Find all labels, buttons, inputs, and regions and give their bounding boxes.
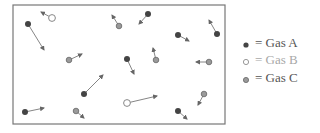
gas-c-gray-dot-icon: [241, 73, 253, 83]
gas-c-dot-icon: [116, 23, 122, 29]
legend-item-gas-a: = Gas A: [241, 34, 298, 52]
gas-c-dot-icon: [201, 91, 207, 97]
gas-a-dot-icon: [25, 21, 31, 27]
particle-gas-c: [153, 48, 159, 63]
gas-a-dot-icon: [81, 91, 87, 97]
particle-gas-c: [66, 54, 82, 63]
gas-b-dot-icon: [49, 15, 56, 22]
particle-gas-a: [209, 20, 220, 37]
gas-b-hollow-dot-icon: [241, 55, 253, 65]
particle-gas-b: [124, 96, 157, 106]
gas-a-filled-dot-icon: [241, 38, 253, 48]
legend-label-gas-b: = Gas B: [255, 52, 298, 68]
particle-gas-c: [196, 59, 212, 65]
velocity-arrow-icon: [84, 75, 103, 94]
particle-gas-a: [81, 75, 103, 97]
particle-gas-b: [41, 12, 55, 21]
gas-c-dot-icon: [206, 59, 212, 65]
gas-a-dot-icon: [124, 56, 130, 62]
particle-gas-a: [175, 108, 187, 119]
gas-b-dot-icon: [124, 100, 131, 107]
gas-c-dot-icon: [66, 57, 72, 63]
legend-label-gas-a: = Gas A: [255, 35, 298, 51]
legend-item-gas-c: = Gas C: [241, 69, 298, 87]
particle-gas-a: [22, 108, 44, 115]
particles-group: [22, 11, 220, 119]
particle-gas-c: [112, 15, 122, 29]
gas-c-dot-icon: [73, 108, 79, 114]
gas-c-dot-icon: [153, 57, 159, 63]
gas-a-dot-icon: [214, 31, 220, 37]
particle-gas-a: [25, 21, 44, 50]
gas-a-dot-icon: [175, 32, 181, 38]
particle-gas-c: [198, 91, 207, 105]
legend-item-gas-b: = Gas B: [241, 52, 298, 70]
legend: = Gas A = Gas B = Gas C: [241, 34, 298, 87]
gas-a-dot-icon: [22, 109, 28, 115]
particle-gas-a: [124, 56, 134, 74]
particle-gas-a: [139, 11, 151, 24]
gas-a-dot-icon: [175, 108, 181, 114]
velocity-arrow-icon: [127, 96, 157, 103]
particle-gas-c: [73, 108, 84, 118]
particle-gas-a: [175, 32, 189, 41]
velocity-arrow-icon: [28, 24, 44, 50]
gas-a-dot-icon: [145, 11, 151, 17]
legend-label-gas-c: = Gas C: [255, 70, 298, 86]
